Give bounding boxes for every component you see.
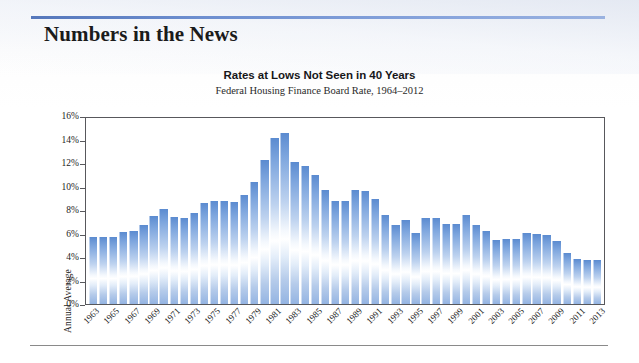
- bar: [432, 218, 440, 304]
- x-axis: 1963196519671969197119731975197719791981…: [85, 306, 605, 350]
- bar: [129, 231, 137, 304]
- bar: [290, 162, 298, 304]
- bar: [391, 225, 399, 304]
- bar: [492, 240, 500, 304]
- chart-plot-area: [85, 117, 605, 305]
- bar: [270, 138, 278, 304]
- bar: [89, 237, 97, 304]
- bar: [280, 133, 288, 304]
- bar: [502, 239, 510, 304]
- bar: [210, 201, 218, 304]
- bar: [99, 237, 107, 304]
- y-axis-tick-label: 4%: [66, 252, 79, 263]
- page-title: Numbers in the News: [44, 22, 238, 47]
- bar: [482, 231, 490, 304]
- bar: [230, 202, 238, 304]
- bar: [260, 160, 268, 304]
- bar: [462, 215, 470, 305]
- bar: [472, 225, 480, 304]
- y-axis-tick-label: 16%: [62, 111, 79, 122]
- header-accent-rule: [31, 16, 605, 19]
- bar: [149, 216, 157, 304]
- bar: [139, 225, 147, 304]
- y-axis-tick-label: 6%: [66, 229, 79, 240]
- y-axis-tick-label: 8%: [66, 205, 79, 216]
- bar: [361, 191, 369, 304]
- y-axis-tick-label: 10%: [62, 182, 79, 193]
- bar: [573, 259, 581, 304]
- bar: [411, 233, 419, 304]
- bar: [301, 166, 309, 304]
- bar: [442, 224, 450, 304]
- bar: [250, 182, 258, 304]
- bar: [200, 203, 208, 304]
- bar: [180, 218, 188, 304]
- bar: [119, 232, 127, 304]
- chart-subtitle: Federal Housing Finance Board Rate, 1964…: [0, 85, 639, 96]
- y-axis: Annual Average 0%2%4%6%8%10%12%14%16%: [48, 111, 79, 311]
- bar: [321, 190, 329, 304]
- bar: [311, 175, 319, 304]
- bar: [220, 201, 228, 304]
- bar: [109, 237, 117, 304]
- bar: [159, 209, 167, 304]
- bar: [452, 224, 460, 304]
- bar: [331, 201, 339, 304]
- bar: [512, 239, 520, 304]
- bar: [532, 234, 540, 304]
- bar: [552, 241, 560, 304]
- bar: [421, 218, 429, 304]
- bar: [563, 253, 571, 304]
- chart-title: Rates at Lows Not Seen in 40 Years: [0, 69, 639, 81]
- bar: [401, 220, 409, 304]
- bar: [583, 260, 591, 304]
- y-axis-tick-label: 2%: [66, 276, 79, 287]
- bar: [522, 233, 530, 304]
- bar-series: [86, 118, 604, 304]
- y-axis-tick-label: 12%: [62, 158, 79, 169]
- y-axis-tick-label: 14%: [62, 135, 79, 146]
- bar: [170, 217, 178, 304]
- document-page: Numbers in the News Rates at Lows Not Se…: [0, 0, 639, 363]
- y-axis-tick-label: 0%: [66, 299, 79, 310]
- bar: [190, 213, 198, 304]
- bar: [240, 195, 248, 304]
- bar: [593, 260, 601, 304]
- bar: [341, 201, 349, 304]
- bar: [371, 199, 379, 304]
- bar: [351, 190, 359, 304]
- bar: [381, 215, 389, 305]
- bar: [542, 235, 550, 304]
- footer-rule: [30, 345, 608, 346]
